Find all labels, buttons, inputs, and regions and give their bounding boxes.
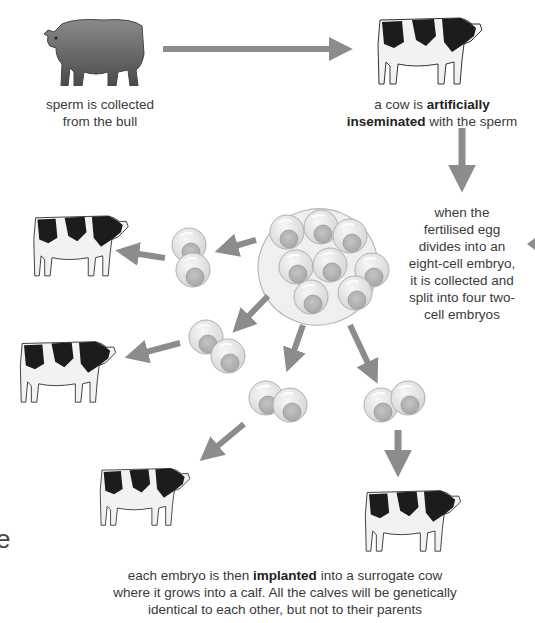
two-cell-embryo-4 bbox=[364, 381, 425, 422]
mother-cow-caption: a cow is artificially inseminated with t… bbox=[332, 96, 532, 130]
caption-line: inseminated with the sperm bbox=[332, 113, 532, 130]
caption-line: a cow is artificially bbox=[332, 96, 532, 113]
cow-icon bbox=[376, 14, 484, 86]
caption-text: with the sperm bbox=[426, 114, 518, 129]
eight-cell-embryo-icon bbox=[245, 195, 391, 338]
surrogate-cow-1-icon bbox=[32, 212, 130, 278]
caption-line: fertilised egg bbox=[400, 221, 524, 238]
cropped-letter-fragment: e bbox=[0, 524, 10, 555]
surrogate-cow-4-icon bbox=[362, 487, 464, 553]
caption-line: eight-cell embryo, bbox=[400, 255, 524, 272]
caption-line: when the bbox=[400, 204, 524, 221]
caption-line: split into four two- bbox=[400, 289, 524, 306]
two-cell-embryo-3 bbox=[249, 381, 307, 422]
bull-icon bbox=[44, 14, 150, 86]
caption-bold-term: artificially bbox=[427, 97, 490, 112]
caption-text: a cow is bbox=[374, 97, 427, 112]
caption-line: it is collected and bbox=[400, 272, 524, 289]
caption-text: each embryo is then bbox=[128, 568, 253, 583]
offscreen-arrow-fragment bbox=[527, 238, 535, 250]
caption-line: identical to each other, but not to thei… bbox=[80, 601, 490, 618]
caption-line: sperm is collected bbox=[30, 96, 170, 113]
caption-line: where it grows into a calf. All the calv… bbox=[80, 584, 490, 601]
caption-line: cell embryos bbox=[400, 306, 524, 323]
caption-line: from the bull bbox=[30, 113, 170, 130]
implantation-caption: each embryo is then implanted into a sur… bbox=[80, 567, 490, 618]
caption-line: divides into an bbox=[400, 238, 524, 255]
caption-text: into a surrogate cow bbox=[317, 568, 442, 583]
two-cell-embryo-2 bbox=[189, 320, 245, 373]
bull-caption: sperm is collected from the bull bbox=[30, 96, 170, 130]
surrogate-cow-3-icon bbox=[96, 465, 194, 527]
caption-bold-term: inseminated bbox=[347, 114, 426, 129]
caption-line: each embryo is then implanted into a sur… bbox=[80, 567, 490, 584]
embryo-split-caption: when the fertilised egg divides into an … bbox=[400, 204, 524, 323]
caption-bold-term: implanted bbox=[253, 568, 317, 583]
two-cell-embryo-1 bbox=[172, 228, 210, 287]
surrogate-cow-2-icon bbox=[18, 338, 118, 404]
